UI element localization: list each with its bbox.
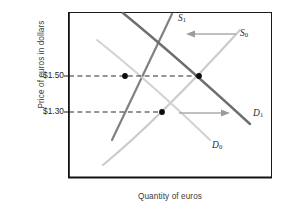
curve-label-d1-text: D	[253, 108, 260, 118]
x-axis-title: Quantity of euros	[68, 192, 272, 201]
figure-root: Price of euros in dollars $1.50 $1.30	[0, 0, 283, 213]
equilibrium-dot-s0-d0	[159, 109, 165, 115]
curve-label-d0-sub: 0	[219, 143, 222, 150]
curve-label-d0: D0	[212, 140, 222, 150]
curve-label-s1: S1	[178, 13, 186, 23]
equilibrium-dot-s0-d1	[196, 73, 202, 79]
curve-label-s1-sub: 1	[183, 16, 186, 23]
curve-label-d0-text: D	[212, 140, 219, 150]
equilibrium-dot-s1-d0	[122, 73, 128, 79]
curve-label-d1: D1	[253, 108, 263, 118]
curve-label-s0-sub: 0	[245, 31, 248, 38]
curve-label-d1-sub: 1	[260, 111, 263, 118]
curve-label-s0: S0	[240, 28, 248, 38]
